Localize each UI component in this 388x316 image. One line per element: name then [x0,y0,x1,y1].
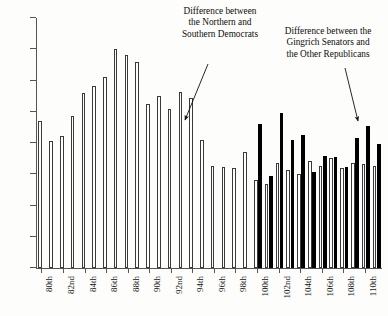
bar-republicans-100th [258,124,262,268]
x-tick-mark [192,268,193,273]
bar-democrats-86th [103,77,107,268]
bar-democrats-95th [200,140,204,268]
bar-republicans-105th [312,172,316,268]
bar-democrats-106th [319,166,323,269]
bar-republicans-111th [377,144,381,268]
bar-democrats-102nd [276,163,280,268]
bar-democrats-94th [189,98,193,268]
annotation-line: the Northern and [158,17,282,28]
annotation-line: Difference between the [268,26,388,37]
x-tick-mark [235,268,236,273]
bar-democrats-105th [308,161,312,269]
bar-democrats-110th [362,164,366,268]
bar-democrats-81st [49,141,53,269]
bar-democrats-85th [92,86,96,269]
x-tick-mark [343,268,344,273]
bar-democrats-93rd [179,92,183,268]
bar-democrats-108th [340,168,344,268]
x-tick-label: 100th [261,276,270,297]
y-tick-mark [30,48,36,49]
x-tick-mark [279,268,280,273]
bar-democrats-90th [146,104,150,268]
x-tick-label: 108th [347,276,356,297]
bar-democrats-109th [351,163,355,268]
bar-republicans-102nd [280,113,284,268]
bar-republicans-106th [323,156,327,269]
x-tick-label: 98th [239,276,248,292]
x-tick-mark [149,268,150,273]
y-tick-mark [30,173,36,174]
x-tick-label: 96th [218,276,227,292]
bar-democrats-103rd [286,170,290,268]
bar-democrats-89th [135,62,139,268]
bar-republicans-109th [355,138,359,268]
bar-republicans-108th [345,167,349,268]
x-tick-label: 80th [45,276,54,292]
x-tick-label: 92nd [175,276,184,294]
x-tick-label: 102nd [283,276,292,299]
bar-democrats-99th [243,152,247,268]
bar-chart: 00.050.10.150.20.250.30.350.4 80th82nd84… [0,0,388,316]
x-tick-label: 106th [326,276,335,297]
bar-republicans-104th [301,135,305,268]
y-tick-mark [30,111,36,112]
x-tick-mark [300,268,301,273]
bar-democrats-84th [82,93,86,268]
bar-democrats-111th [373,166,377,268]
x-tick-mark [214,268,215,273]
y-tick-mark [30,267,36,268]
x-tick-mark [106,268,107,273]
x-tick-mark [41,268,42,273]
x-tick-mark [365,268,366,273]
x-tick-mark [171,268,172,273]
bar-democrats-96th [211,166,215,269]
x-tick-label: 104th [304,276,313,297]
annotation-line: Difference between [158,6,282,17]
bar-democrats-100th [254,180,258,268]
x-tick-label: 90th [153,276,162,292]
bar-republicans-107th [334,157,338,268]
bar-democrats-83rd [71,116,75,269]
x-tick-mark [128,268,129,273]
annotation-northern-southern-democrats: Difference betweenthe Northern andSouthe… [158,6,282,40]
x-tick-mark [322,268,323,273]
x-tick-label: 110th [369,276,378,296]
annotation-gingrich-senators-republicans: Difference between theGingrich Senators … [268,26,388,60]
bar-democrats-104th [297,174,301,268]
bar-republicans-110th [366,126,370,268]
x-axis-line [36,268,382,269]
bar-democrats-97th [222,167,226,268]
x-tick-mark [85,268,86,273]
bar-democrats-80th [38,121,42,268]
y-tick-mark [30,236,36,237]
x-tick-label: 82nd [67,276,76,294]
annotation-line: Gingrich Senators and [268,37,388,48]
y-tick-mark [30,17,36,18]
annotation-line: the Other Republicans [268,49,388,60]
x-tick-mark [257,268,258,273]
bar-democrats-107th [329,158,333,268]
bar-democrats-92nd [168,109,172,268]
bar-democrats-88th [125,55,129,268]
x-tick-mark [63,268,64,273]
y-tick-mark [30,205,36,206]
bar-republicans-101st [269,176,273,269]
x-tick-label: 84th [89,276,98,292]
bar-democrats-101st [265,184,269,268]
bar-democrats-98th [232,168,236,268]
x-tick-label: 88th [132,276,141,292]
x-tick-label: 94th [196,276,205,292]
y-tick-mark [30,142,36,143]
y-tick-mark [30,80,36,81]
bar-democrats-91st [157,96,161,268]
annotation-line: Southern Democrats [158,29,282,40]
x-tick-label: 86th [110,276,119,292]
bar-republicans-103rd [291,140,295,268]
bar-democrats-82nd [60,136,64,269]
bar-democrats-87th [114,49,118,268]
